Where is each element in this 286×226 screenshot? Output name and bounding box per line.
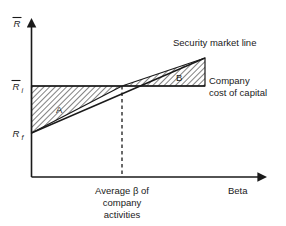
y-axis-title: R [13,18,22,30]
y-tick-r-f-base: R [13,128,20,139]
y-tick-r-bar-i-base: R [13,81,20,92]
security-market-line-label: Security market line [173,37,256,48]
y-axis-title-text: R [14,18,21,29]
figure-container: R R i R f Security market line Company c… [0,0,286,226]
average-beta-label-line3: activities [104,209,141,220]
region-b-label: B [176,72,182,83]
average-beta-label-line1: Average β of [95,185,149,196]
region-a-label: A [56,104,63,115]
x-axis-title: Beta [228,185,248,196]
company-cost-of-capital-label-line2: cost of capital [209,87,267,98]
security-market-line-diagram: R R i R f Security market line Company c… [0,0,286,226]
company-cost-of-capital-label-line1: Company [209,75,250,86]
average-beta-label-line2: company [103,197,142,208]
